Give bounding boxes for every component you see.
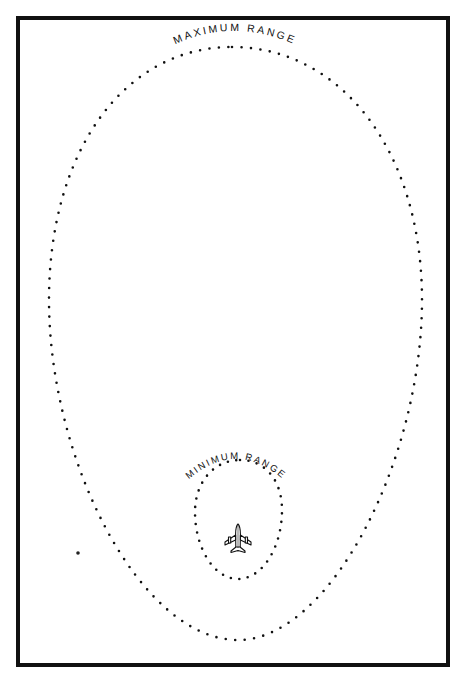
minimum-range-label: MINIMUM RANGE xyxy=(183,450,289,481)
maximum-range-label: MAXIMUM RANGE xyxy=(171,21,298,46)
minimum-range-boundary xyxy=(195,460,282,579)
stray-mark xyxy=(76,551,80,555)
range-diagram: MAXIMUM RANGE MINIMUM RANGE xyxy=(0,0,463,676)
aircraft-top-view-icon xyxy=(225,524,251,553)
